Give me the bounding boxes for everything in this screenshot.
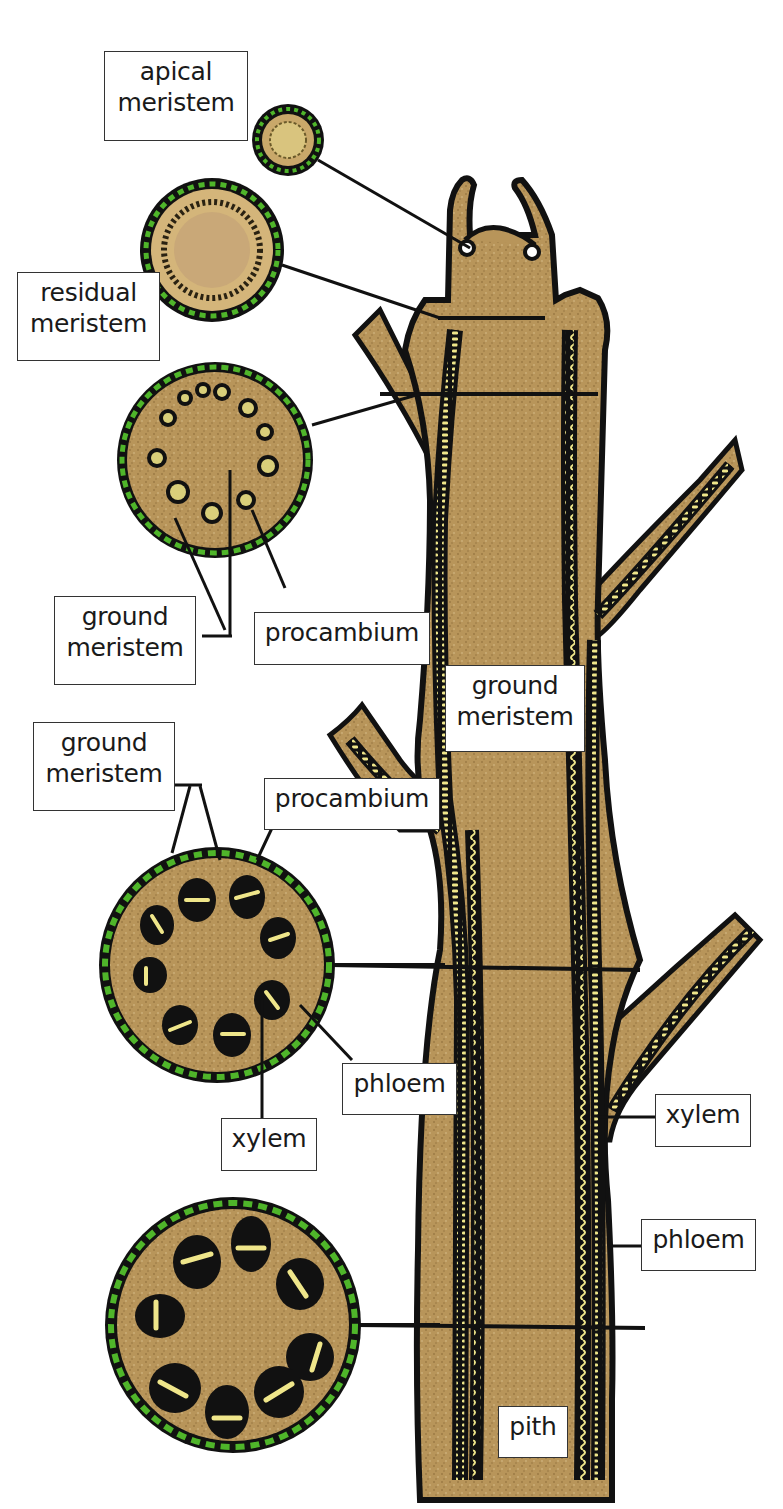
label-phloem-2: phloem (641, 1219, 756, 1271)
cross-section-mature (105, 1197, 440, 1453)
label-xylem-2: xylem (655, 1094, 751, 1147)
label-ground-meristem-2: ground meristem (33, 722, 175, 811)
label-residual-meristem: residual meristem (17, 272, 160, 361)
label-procambium-1: procambium (254, 612, 430, 665)
label-procambium-2: procambium (264, 778, 440, 830)
cross-section-apical (252, 104, 470, 248)
cross-section-young (117, 362, 420, 636)
label-phloem-1: phloem (342, 1063, 457, 1115)
label-ground-meristem-1: ground meristem (54, 596, 196, 685)
label-apical-meristem: apical meristem (104, 51, 248, 141)
cross-section-residual (140, 178, 440, 322)
label-ground-meristem-center: ground meristem (445, 665, 585, 752)
label-xylem-1: xylem (221, 1118, 317, 1171)
main-stem (330, 178, 760, 1500)
label-pith: pith (498, 1406, 568, 1458)
